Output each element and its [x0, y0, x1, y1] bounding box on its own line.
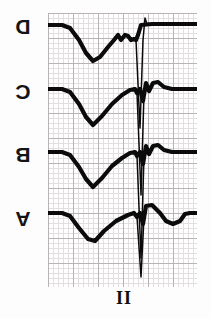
- trace-body-a: [48, 205, 197, 241]
- trace-body-d: [48, 24, 197, 61]
- lead-label: II: [93, 286, 153, 307]
- panel-label-c: C: [10, 82, 36, 103]
- ecg-traces: [48, 13, 197, 287]
- trace-body-b: [48, 145, 197, 187]
- panel-label-b: B: [10, 145, 36, 166]
- ecg-grid-area: [48, 13, 197, 287]
- panel-label-d: D: [10, 17, 36, 38]
- ecg-figure: D C B A II: [0, 0, 211, 318]
- panel-label-a: A: [10, 209, 36, 230]
- trace-body-c: [48, 82, 197, 125]
